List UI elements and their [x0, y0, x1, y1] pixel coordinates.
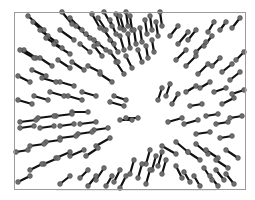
- segment-endpoint-marker: [138, 26, 143, 31]
- segment-endpoint-marker: [194, 54, 199, 59]
- segment-endpoint-marker: [156, 98, 161, 103]
- segment-endpoint-marker: [78, 176, 83, 181]
- segment-endpoint-marker: [98, 70, 103, 75]
- segment-endpoint-marker: [80, 98, 85, 103]
- segment-endpoint-marker: [238, 16, 243, 21]
- segment-endpoint-marker: [110, 80, 115, 85]
- segment-endpoint-marker: [218, 136, 223, 141]
- segment-endpoint-marker: [30, 102, 35, 107]
- segment-endpoint-marker: [240, 114, 245, 119]
- segment-endpoint-marker: [144, 44, 149, 49]
- segment-endpoint-marker: [48, 90, 53, 95]
- segment-endpoint-marker: [42, 142, 47, 147]
- segment-endpoint-marker: [92, 44, 97, 49]
- segment-endpoint-marker: [126, 32, 131, 37]
- segment-endpoint-marker: [90, 130, 95, 135]
- segment-endpoint-marker: [56, 156, 61, 161]
- segment-endpoint-marker: [194, 132, 199, 137]
- segment-endpoint-marker: [218, 56, 223, 61]
- segment-endpoint-marker: [216, 112, 221, 117]
- segment-endpoint-marker: [182, 170, 187, 175]
- segment-endpoint-marker: [224, 86, 229, 91]
- segment-endpoint-marker: [86, 110, 91, 115]
- segment-endpoint-marker: [32, 94, 37, 99]
- segment-endpoint-marker: [72, 122, 77, 127]
- segment-endpoint-marker: [118, 118, 123, 123]
- segment-endpoint-marker: [31, 20, 36, 25]
- segment-endpoint-marker: [94, 94, 99, 99]
- segment-endpoint-marker: [122, 72, 127, 77]
- segment-endpoint-marker: [126, 24, 131, 29]
- segment-endpoint-marker: [118, 168, 123, 173]
- segment-endpoint-marker: [210, 34, 215, 39]
- segment-endpoint-marker: [102, 28, 107, 33]
- segment-endpoint-marker: [52, 42, 57, 47]
- segment-endpoint-marker: [194, 28, 199, 33]
- segment-endpoint-marker: [102, 166, 107, 171]
- segment-endpoint-marker: [100, 54, 105, 59]
- segment-endpoint-marker: [234, 58, 239, 63]
- segment-endpoint-marker: [176, 42, 181, 47]
- segment-endpoint-marker: [58, 182, 63, 187]
- segment-endpoint-marker: [68, 52, 73, 57]
- segment-endpoint-marker: [144, 182, 149, 187]
- segment-endpoint-marker: [176, 92, 181, 97]
- segment-endpoint-marker: [72, 84, 77, 89]
- segment-endpoint-marker: [160, 86, 165, 91]
- segment-endpoint-marker: [112, 42, 117, 47]
- segment-endpoint-marker: [164, 158, 169, 163]
- segment-endpoint-marker: [214, 168, 219, 173]
- segment-endpoint-marker: [122, 104, 127, 109]
- segment-endpoint-marker: [174, 58, 179, 63]
- segment-endpoint-marker: [88, 50, 93, 55]
- segment-endpoint-marker: [214, 122, 219, 127]
- segment-endpoint-marker: [68, 150, 73, 155]
- segment-endpoint-marker: [50, 64, 55, 69]
- segment-endpoint-marker: [140, 162, 145, 167]
- segment-endpoint-marker: [143, 18, 148, 23]
- segment-endpoint-marker: [116, 50, 121, 55]
- segment-endpoint-marker: [96, 146, 101, 151]
- segment-endpoint-marker: [18, 120, 23, 125]
- segment-endpoint-marker: [206, 30, 211, 35]
- segment-endpoint-marker: [16, 98, 21, 103]
- segment-endpoint-marker: [118, 34, 123, 39]
- segment-endpoint-marker: [60, 46, 65, 51]
- segment-endpoint-marker: [70, 112, 75, 117]
- segment-endpoint-marker: [220, 102, 225, 107]
- segment-endpoint-marker: [104, 184, 109, 189]
- segment-endpoint-marker: [108, 136, 113, 141]
- segment-endpoint-marker: [184, 64, 189, 69]
- segment-endpoint-marker: [230, 92, 235, 97]
- segment-endpoint-marker: [44, 74, 49, 79]
- segment-endpoint-marker: [58, 138, 63, 143]
- segment-endpoint-marker: [18, 126, 23, 131]
- segment-endpoint-marker: [132, 158, 137, 163]
- marker-layer: [14, 10, 247, 191]
- segment-endpoint-marker: [208, 80, 213, 85]
- segment-endpoint-marker: [226, 166, 231, 171]
- segment-endpoint-marker: [160, 24, 165, 29]
- segment-endpoint-marker: [116, 60, 121, 65]
- segment-endpoint-marker: [228, 78, 233, 83]
- segment-endpoint-marker: [168, 34, 173, 39]
- segment-endpoint-marker: [196, 72, 201, 77]
- segment-endpoint-marker: [128, 46, 133, 51]
- segment-endpoint-marker: [198, 86, 203, 91]
- segment-endpoint-marker: [78, 122, 83, 127]
- segment-endpoint-marker: [146, 56, 151, 61]
- segment-endpoint-marker: [82, 148, 87, 153]
- segment-endpoint-marker: [58, 124, 63, 129]
- segment-endpoint-marker: [224, 148, 229, 153]
- segment-endpoint-marker: [218, 28, 223, 33]
- segment-endpoint-marker: [130, 66, 135, 71]
- segment-endpoint-marker: [80, 90, 85, 95]
- vector-field-chart: [0, 0, 255, 200]
- segment-endpoint-marker: [86, 184, 91, 189]
- segment-endpoint-marker: [210, 64, 215, 69]
- segment-endpoint-marker: [130, 118, 135, 123]
- segment-endpoint-marker: [134, 42, 139, 47]
- segment-endpoint-marker: [56, 58, 61, 63]
- segment-endpoint-marker: [28, 174, 33, 179]
- segment-endpoint-marker: [186, 30, 191, 35]
